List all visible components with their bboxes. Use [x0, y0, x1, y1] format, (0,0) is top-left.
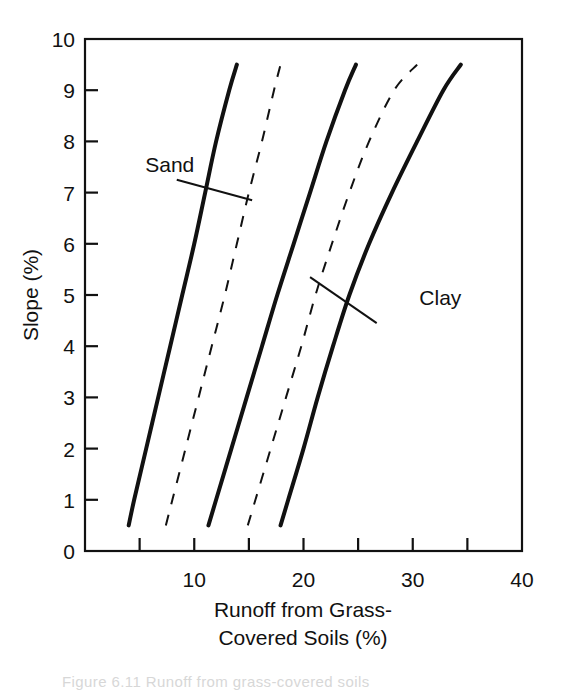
series-label-clay: Clay: [419, 286, 462, 309]
y-tick-label: 6: [63, 233, 75, 256]
x-axis-title-line-1: Runoff from Grass-: [214, 598, 392, 621]
y-tick-label: 10: [52, 28, 75, 51]
y-tick-label: 1: [63, 489, 75, 512]
y-tick-label: 3: [63, 386, 75, 409]
y-tick-label: 4: [63, 335, 75, 358]
y-tick-label: 2: [63, 438, 75, 461]
x-axis-title-line-2: Covered Soils (%): [218, 626, 387, 649]
y-tick-label: 7: [63, 182, 75, 205]
y-axis-title: Slope (%): [19, 249, 42, 341]
cut-off-caption: Figure 6.11 Runoff from grass-covered so…: [62, 673, 370, 690]
y-tick-label: 0: [63, 540, 75, 563]
x-tick-label: 20: [292, 568, 315, 591]
x-tick-label: 30: [401, 568, 424, 591]
y-tick-label: 8: [63, 130, 75, 153]
x-tick-label: 10: [183, 568, 206, 591]
y-tick-label: 9: [63, 79, 75, 102]
x-tick-label: 40: [510, 568, 533, 591]
y-tick-label: 5: [63, 284, 75, 307]
series-label-sand: Sand: [145, 153, 194, 176]
